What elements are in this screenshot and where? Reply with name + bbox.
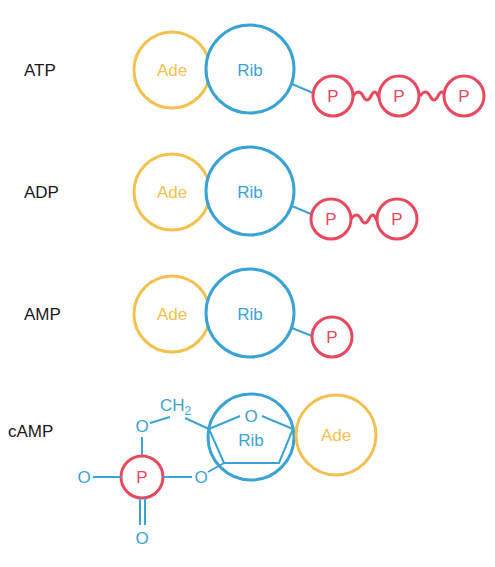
atp-label: ATP [24, 61, 56, 80]
phosphate-label: P [458, 87, 469, 106]
ribose-label: Rib [237, 183, 263, 202]
phosphate-label: P [393, 87, 404, 106]
ribose-phosphate-bond [292, 84, 313, 93]
oxygen-left: O [77, 468, 90, 487]
oxygen-top: O [135, 417, 148, 436]
phosphate-label: P [325, 210, 336, 229]
oxygen-right: O [194, 468, 207, 487]
nucleotide-diagram: ATP Ade Rib P P P ADP Ade Rib P P AMP Ad… [0, 0, 495, 567]
ribose-label: Rib [238, 431, 264, 450]
adenine-label: Ade [157, 61, 187, 80]
phosphate-label: P [326, 328, 337, 347]
adenine-label: Ade [321, 426, 351, 445]
adp-label: ADP [24, 183, 59, 202]
ribose-label: Rib [237, 61, 263, 80]
adp-group: ADP Ade Rib P P [24, 147, 417, 239]
oxygen-bottom: O [135, 529, 148, 548]
camp-label: cAMP [8, 422, 53, 441]
phosphate-label: P [327, 87, 338, 106]
ribose-phosphate-bond [292, 206, 311, 214]
phosphate-label: P [391, 210, 402, 229]
atp-group: ATP Ade Rib P P P [24, 25, 484, 116]
camp-group: cAMP Ade O Rib CH2 O P O O O [8, 394, 376, 548]
ring-oxygen: O [244, 407, 257, 426]
amp-group: AMP Ade Rib P [24, 269, 352, 357]
ch2-ring-bond [185, 418, 209, 429]
amp-label: AMP [24, 305, 61, 324]
ribose-phosphate-bond [292, 328, 312, 336]
adenine-label: Ade [157, 305, 187, 324]
ch2-group: CH2 [160, 396, 192, 418]
high-energy-bond [351, 215, 378, 223]
high-energy-bond-1 [353, 92, 380, 100]
phosphate-label: P [136, 468, 147, 487]
ribose-label: Rib [237, 305, 263, 324]
adenine-label: Ade [157, 183, 187, 202]
o-ch2-bond [150, 417, 170, 423]
